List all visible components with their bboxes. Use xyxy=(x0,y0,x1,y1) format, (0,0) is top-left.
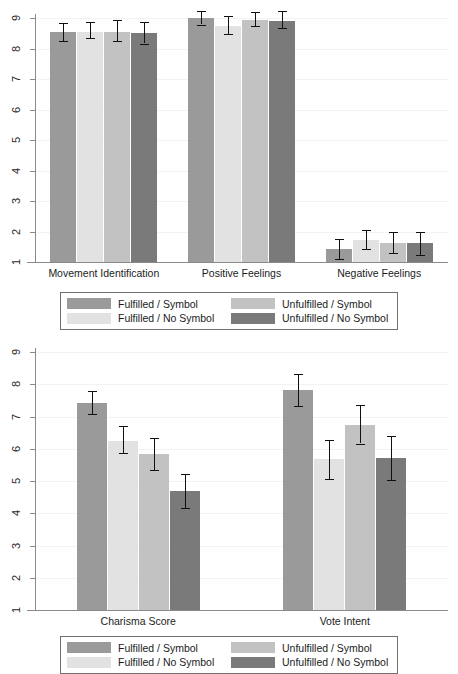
error-bar-cap-lower xyxy=(88,414,97,415)
y-tick-mark xyxy=(30,417,35,418)
y-tick-mark xyxy=(30,171,35,172)
error-bar-cap-lower xyxy=(86,38,95,39)
y-tick-label: 3 xyxy=(11,190,22,212)
legend-label: Fulfilled / No Symbol xyxy=(118,312,214,324)
error-bar-cap-lower xyxy=(389,253,398,254)
error-bar-stem xyxy=(228,16,229,34)
error-bar-cap-upper xyxy=(251,12,260,13)
error-bar-stem xyxy=(420,232,421,255)
y-axis-line xyxy=(35,348,36,610)
y-tick-label: 3 xyxy=(11,535,22,557)
y-tick-label: 9 xyxy=(11,7,22,29)
y-tick-label: 9 xyxy=(11,341,22,363)
error-bar-stem xyxy=(393,232,394,253)
gridline xyxy=(35,18,448,19)
bar xyxy=(77,32,103,262)
error-bar-cap-lower xyxy=(224,34,233,35)
y-tick-mark xyxy=(30,610,35,611)
legend-item-unfulfilled-no-symbol: Unfulfilled / No Symbol xyxy=(231,312,391,326)
y-tick-mark xyxy=(30,384,35,385)
error-bar-cap-lower xyxy=(356,444,365,445)
error-bar-stem xyxy=(282,11,283,28)
y-tick-label: 4 xyxy=(11,502,22,524)
legend-grid: Fulfilled / Symbol Unfulfilled / Symbol … xyxy=(67,641,391,669)
legend-item-fulfilled-symbol: Fulfilled / Symbol xyxy=(67,297,227,311)
y-tick-mark xyxy=(30,262,35,263)
error-bar-stem xyxy=(185,474,186,508)
error-bar-stem xyxy=(298,374,299,406)
legend-label: Unfulfilled / Symbol xyxy=(282,298,372,310)
legend-label: Fulfilled / Symbol xyxy=(118,298,198,310)
error-bar-cap-lower xyxy=(335,259,344,260)
legend-swatch-unfulfilled-no-symbol xyxy=(231,313,275,324)
error-bar-cap-upper xyxy=(278,11,287,12)
bar xyxy=(242,20,268,262)
error-bar-cap-upper xyxy=(197,11,206,12)
bar xyxy=(139,454,169,610)
error-bar-cap-lower xyxy=(113,41,122,42)
error-bar-stem xyxy=(117,20,118,41)
x-category-label: Vote Intent xyxy=(242,615,449,627)
y-tick-mark xyxy=(30,481,35,482)
y-tick-mark xyxy=(30,201,35,202)
error-bar-cap-lower xyxy=(325,479,334,480)
y-tick-mark xyxy=(30,110,35,111)
error-bar-cap-lower xyxy=(197,25,206,26)
error-bar-cap-lower xyxy=(362,249,371,250)
error-bar-cap-upper xyxy=(140,22,149,23)
error-bar-cap-upper xyxy=(294,374,303,375)
bar xyxy=(188,18,214,262)
legend-swatch-fulfilled-no-symbol xyxy=(67,657,111,668)
legend-bottom: Fulfilled / Symbol Unfulfilled / Symbol … xyxy=(60,636,398,674)
error-bar-cap-upper xyxy=(387,436,396,437)
y-tick-label: 5 xyxy=(11,470,22,492)
error-bar-cap-lower xyxy=(119,453,128,454)
error-bar-stem xyxy=(63,23,64,41)
legend-swatch-fulfilled-symbol xyxy=(67,298,111,309)
legend-label: Unfulfilled / No Symbol xyxy=(282,312,388,324)
y-tick-mark xyxy=(30,546,35,547)
legend-swatch-unfulfilled-symbol xyxy=(231,298,275,309)
legend-swatch-unfulfilled-symbol xyxy=(231,642,275,653)
legend-label: Unfulfilled / No Symbol xyxy=(282,656,388,668)
error-bar-stem xyxy=(339,239,340,259)
bar xyxy=(131,33,157,262)
y-tick-mark xyxy=(30,352,35,353)
legend-item-fulfilled-no-symbol: Fulfilled / No Symbol xyxy=(67,312,227,326)
gridline xyxy=(35,352,448,353)
chart-panel-bottom: 123456789Charisma ScoreVote Intent Fulfi… xyxy=(0,336,458,671)
legend-item-fulfilled-symbol: Fulfilled / Symbol xyxy=(67,641,227,655)
legend-label: Unfulfilled / Symbol xyxy=(282,642,372,654)
y-tick-label: 6 xyxy=(11,99,22,121)
error-bar-cap-upper xyxy=(356,405,365,406)
y-tick-mark xyxy=(30,140,35,141)
gridline xyxy=(35,384,448,385)
bar xyxy=(345,425,375,610)
y-axis-line xyxy=(35,14,36,262)
legend-label: Fulfilled / Symbol xyxy=(118,642,198,654)
error-bar-cap-upper xyxy=(224,16,233,17)
legend-swatch-fulfilled-no-symbol xyxy=(67,313,111,324)
legend-item-fulfilled-no-symbol: Fulfilled / No Symbol xyxy=(67,656,227,670)
y-tick-mark xyxy=(30,79,35,80)
x-category-label: Negative Feelings xyxy=(310,267,448,279)
error-bar-cap-lower xyxy=(59,41,68,42)
error-bar-cap-upper xyxy=(150,438,159,439)
chart-panel-top: 123456789Movement IdentificationPositive… xyxy=(0,0,458,335)
y-tick-label: 1 xyxy=(11,599,22,621)
y-tick-mark xyxy=(30,513,35,514)
error-bar-cap-upper xyxy=(59,23,68,24)
y-tick-mark xyxy=(30,49,35,50)
error-bar-stem xyxy=(154,438,155,471)
legend-item-unfulfilled-symbol: Unfulfilled / Symbol xyxy=(231,641,391,655)
error-bar-cap-upper xyxy=(325,440,334,441)
error-bar-stem xyxy=(329,440,330,479)
x-category-label: Positive Feelings xyxy=(173,267,311,279)
error-bar-cap-upper xyxy=(113,20,122,21)
error-bar-cap-upper xyxy=(389,232,398,233)
legend-item-unfulfilled-symbol: Unfulfilled / Symbol xyxy=(231,297,391,311)
x-axis-line xyxy=(27,610,448,611)
bar xyxy=(215,26,241,262)
bar xyxy=(77,403,107,610)
y-tick-label: 2 xyxy=(11,567,22,589)
